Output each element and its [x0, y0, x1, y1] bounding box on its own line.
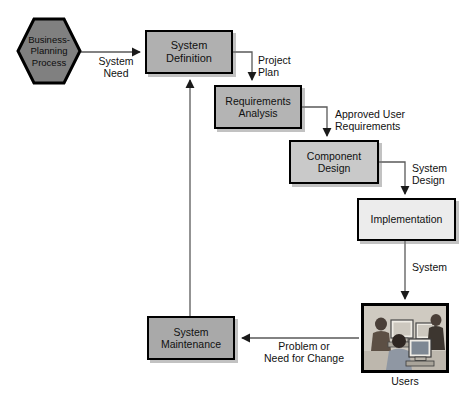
- edge-requirements-to-component: [301, 107, 327, 136]
- monitor-center: [406, 339, 434, 366]
- edge-label-project-plan: Project Plan: [258, 54, 320, 79]
- node-label-system-definition: System Definition: [163, 39, 215, 65]
- diagram-canvas: Business- Planning Process System Defini…: [0, 0, 468, 394]
- node-label-system-maintenance: System Maintenance: [158, 326, 224, 351]
- node-label-business-planning-process: Business- Planning Process: [15, 16, 83, 86]
- users-illustration: [364, 306, 446, 370]
- node-users-image[interactable]: [361, 303, 449, 373]
- node-business-planning-process[interactable]: Business- Planning Process: [15, 16, 83, 86]
- node-label-users: Users: [361, 375, 449, 387]
- node-system-definition[interactable]: System Definition: [145, 30, 233, 74]
- edge-label-problem-or-need-for-change: Problem or Need for Change: [248, 340, 360, 365]
- edge-label-system-design: System Design: [412, 162, 468, 187]
- node-implementation[interactable]: Implementation: [357, 198, 456, 241]
- node-label-requirements-analysis: Requirements Analysis: [222, 95, 293, 120]
- edge-label-approved-user-requirements: Approved User Requirements: [335, 108, 445, 133]
- node-label-component-design: Component Design: [304, 150, 364, 175]
- node-requirements-analysis[interactable]: Requirements Analysis: [214, 85, 302, 129]
- node-system-maintenance[interactable]: System Maintenance: [147, 316, 235, 360]
- node-label-implementation: Implementation: [368, 213, 446, 225]
- edge-component-to-implementation: [379, 162, 405, 194]
- edge-definition-to-requirements: [233, 52, 252, 80]
- edge-label-system: System: [412, 261, 468, 273]
- edge-label-system-need: System Need: [85, 55, 147, 80]
- node-component-design[interactable]: Component Design: [289, 140, 379, 184]
